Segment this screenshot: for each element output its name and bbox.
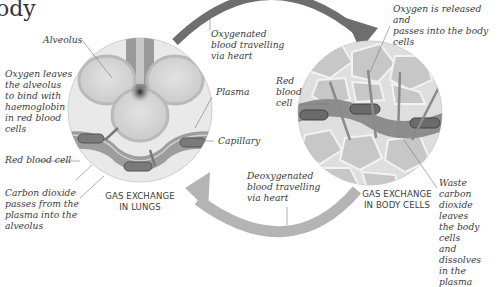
lung-gas-exchange-illustration [62,30,218,182]
label-red-blood-cell-body: Red blood cell [276,75,302,108]
label-plasma: Plasma [216,86,250,97]
label-alveolus: Alveolus [43,34,82,45]
caption-gas-exchange-body-cells: GAS EXCHANGE IN BODY CELLS [352,189,442,210]
label-red-blood-cell-lungs: Red blood cell [5,154,71,165]
label-waste-carbon-dioxide: Waste carbon dioxide leaves the body cel… [439,177,501,287]
label-capillary: Capillary [218,135,260,146]
label-oxygen-released: Oxygen is released and passes into the b… [393,3,501,47]
page-title-fragment: ody [0,0,36,21]
label-oxygenated-blood: Oxygenated blood travelling via heart [211,28,285,61]
label-deoxygenated-blood: Deoxygenated blood travelling via heart [247,170,321,203]
label-oxygen-leaves-alveolus: Oxygen leaves the alveolus to bind with … [5,68,72,134]
caption-gas-exchange-lungs: GAS EXCHANGE IN LUNGS [100,191,180,212]
label-carbon-dioxide-passes: Carbon dioxide passes from the plasma in… [5,187,79,231]
